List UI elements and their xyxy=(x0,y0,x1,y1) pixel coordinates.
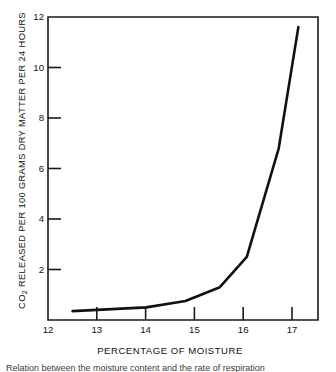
data-series-line xyxy=(73,27,299,311)
x-tick-label: 12 xyxy=(36,324,60,335)
x-axis-tick-labels: 12 13 14 15 16 17 xyxy=(0,324,336,338)
figure-caption: Relation between the moisture content an… xyxy=(6,363,330,372)
x-tick-label: 17 xyxy=(280,324,304,335)
axis-frame xyxy=(48,17,318,320)
x-tick-label: 16 xyxy=(231,324,255,335)
x-tick-label: 15 xyxy=(182,324,206,335)
chart-figure: CO2 RELEASED PER 100 GRAMS DRY MATTER PE… xyxy=(0,0,336,372)
plot-area xyxy=(0,0,336,372)
x-tick-label: 13 xyxy=(85,324,109,335)
x-axis-title: PERCENTAGE OF MOISTURE xyxy=(48,345,292,356)
x-tick-label: 14 xyxy=(134,324,158,335)
y-axis-ticks xyxy=(48,68,61,270)
